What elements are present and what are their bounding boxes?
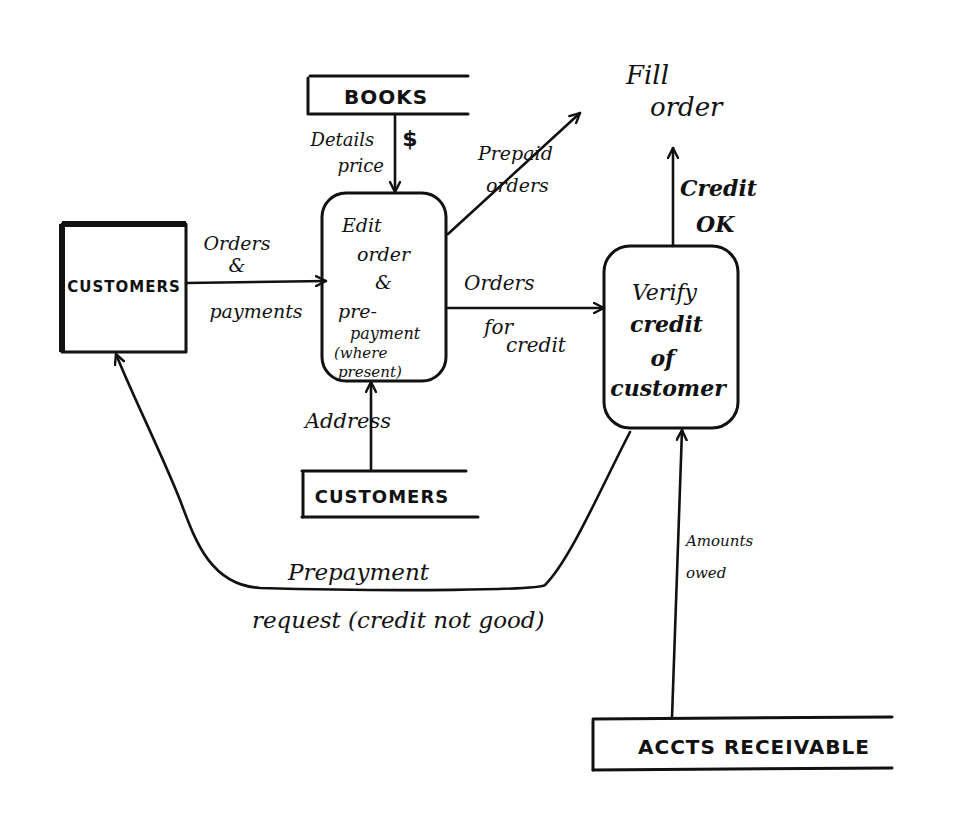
store-label: ACCTS RECEIVABLE [638,735,870,759]
flow-arrow [186,281,326,283]
dollar-mark-icon: $ [402,126,417,151]
data-store-accts-receivable[interactable]: ACCTS RECEIVABLE [593,717,892,770]
store-label: CUSTOMERS [315,486,449,507]
sink-fill-order: Fill order [625,60,724,122]
store-bottom-line [593,768,892,770]
process-verify-credit[interactable]: Verify credit of customer [604,246,738,428]
entity-label: CUSTOMERS [67,278,181,296]
external-entity-customers[interactable]: CUSTOMERS [62,224,186,352]
flow-label: Orders for credit [464,271,567,357]
flow-orders-payments[interactable]: Orders & payments [186,232,326,322]
flow-prepaid-orders[interactable]: Prepaid orders [448,113,580,234]
process-label: Verify credit of customer [610,280,727,401]
flow-label: Credit OK [680,175,765,237]
process-edit-order[interactable]: Edit order & pre- payment (where present… [322,193,446,381]
sink-label: Fill order [625,60,724,122]
data-store-books[interactable]: BOOKS [308,76,468,114]
flow-label: Details price [309,129,384,176]
flow-label: Prepayment request (credit not good) [252,559,545,633]
data-flow-diagram: CUSTOMERS BOOKS CUSTOMERS ACCTS RECEIVAB… [0,0,965,818]
flow-address[interactable]: Address [303,382,391,471]
flow-details-price[interactable]: Details price $ [309,114,417,192]
process-label: Edit order & pre- payment (where present… [334,214,426,381]
store-top-line [593,717,892,719]
flow-orders-for-credit[interactable]: Orders for credit [448,271,604,357]
flow-label: Amounts owed [684,532,758,582]
data-store-customers[interactable]: CUSTOMERS [302,471,478,517]
flow-label: Orders & payments [204,232,303,322]
flow-credit-ok[interactable]: Credit OK [673,148,765,246]
flow-amounts-owed[interactable]: Amounts owed [672,430,758,718]
flow-label: Address [303,409,391,433]
flow-arrow [672,430,682,718]
store-label: BOOKS [344,85,428,109]
